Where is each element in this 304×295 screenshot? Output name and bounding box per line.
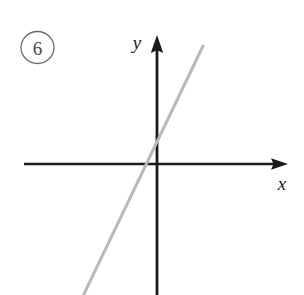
plotted-line [83,46,203,295]
coordinate-plane-figure: y x 6 [0,0,304,295]
x-axis-arrowhead [271,158,288,170]
y-axis-label: y [131,32,142,53]
problem-number-badge: 6 [21,32,54,64]
problem-number-label: 6 [33,38,43,59]
figure-canvas: y x 6 [0,0,304,295]
x-axis-label: x [277,173,287,194]
